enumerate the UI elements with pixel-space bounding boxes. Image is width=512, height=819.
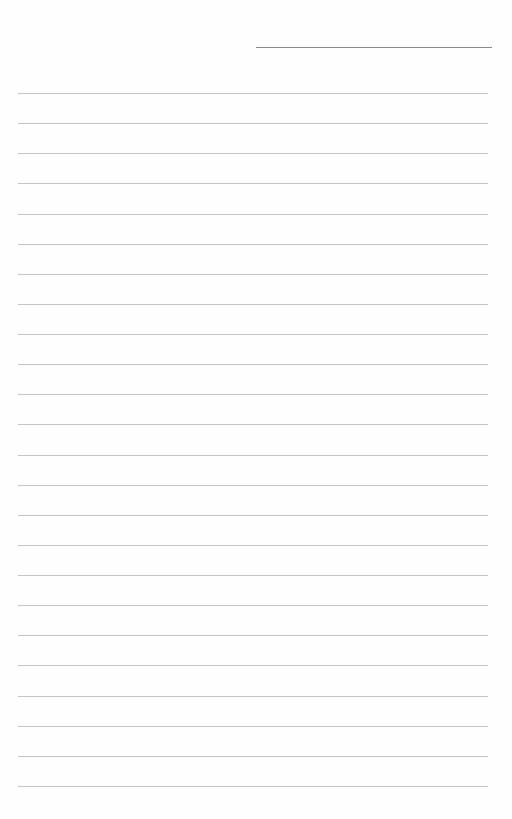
ruled-line: [18, 545, 488, 546]
ruled-line: [18, 244, 488, 245]
ruled-lines: [0, 0, 512, 819]
ruled-line: [18, 605, 488, 606]
ruled-line: [18, 304, 488, 305]
ruled-line: [18, 515, 488, 516]
ruled-line: [18, 183, 488, 184]
ruled-line: [18, 153, 488, 154]
ruled-line: [18, 334, 488, 335]
ruled-line: [18, 726, 488, 727]
ruled-line: [18, 756, 488, 757]
notebook-page: [0, 0, 512, 819]
ruled-line: [18, 696, 488, 697]
ruled-line: [18, 364, 488, 365]
ruled-line: [18, 274, 488, 275]
ruled-line: [18, 786, 488, 787]
ruled-line: [18, 485, 488, 486]
ruled-line: [18, 455, 488, 456]
ruled-line: [18, 635, 488, 636]
ruled-line: [18, 214, 488, 215]
ruled-line: [18, 665, 488, 666]
ruled-line: [18, 424, 488, 425]
ruled-line: [18, 575, 488, 576]
ruled-line: [18, 123, 488, 124]
ruled-line: [18, 394, 488, 395]
ruled-line: [18, 93, 488, 94]
